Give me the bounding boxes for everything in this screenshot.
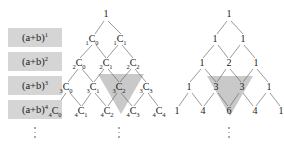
combination-node-4-1: 4C1 <box>74 106 87 116</box>
figure-canvas: (a+b)1 (a+b)2 (a+b)3 (a+b)4 1 1C0 1C1 2C… <box>0 0 284 149</box>
combination-node-2-1-sym: C <box>103 57 110 68</box>
pascal-node-4-2: 6 <box>227 106 232 116</box>
triangle-graphics-layer <box>0 0 284 149</box>
pascal-node-2-0: 1 <box>200 58 205 68</box>
pascal-node-4-4: 1 <box>279 106 284 116</box>
combination-node-4-4-sub: 4 <box>162 111 165 118</box>
combination-node-2-2-sym: C <box>130 57 137 68</box>
combination-node-3-3: 3C3 <box>139 82 152 92</box>
power-label-base-3: (a+b) <box>22 80 45 91</box>
combination-node-1-0: 1C0 <box>85 34 98 44</box>
combination-node-1-1: 1C1 <box>113 34 126 44</box>
combination-node-2-2-sub: 2 <box>136 63 139 70</box>
combination-node-3-1-sym: C <box>90 81 97 92</box>
combination-node-4-0-sym: C <box>52 105 59 116</box>
combination-node-4-0-sub: 0 <box>58 111 61 118</box>
combination-node-2-0-sym: C <box>76 57 83 68</box>
power-label-base-1: (a+b) <box>22 32 45 43</box>
combination-node-3-3-sub: 3 <box>149 87 152 94</box>
power-label-1: (a+b)1 <box>8 28 62 47</box>
power-label-3: (a+b)3 <box>8 76 62 95</box>
combination-node-2-2: 2C2 <box>126 58 139 68</box>
combination-node-4-0: 4C0 <box>48 106 61 116</box>
combination-node-1-1-sym: C <box>117 33 124 44</box>
combination-node-2-0-sub: 0 <box>82 63 85 70</box>
pascal-node-4-1: 4 <box>201 106 206 116</box>
combination-node-2-1: 2C1 <box>99 58 112 68</box>
combination-node-4-4: 4C4 <box>152 106 165 116</box>
combination-node-1-0-sub: 0 <box>95 39 98 46</box>
pascal-node-1-0: 1 <box>213 34 218 44</box>
combination-node-3-0-sub: 0 <box>69 87 72 94</box>
combination-node-4-2-sym: C <box>104 105 111 116</box>
pascal-node-3-2: 3 <box>240 82 245 92</box>
combination-node-3-2: 3C2 <box>112 82 125 92</box>
pascal-node-4-3: 4 <box>253 106 258 116</box>
combination-apex-1: 1 <box>104 9 109 19</box>
combination-node-3-1: 3C1 <box>86 82 99 92</box>
combination-node-3-0: 3C0 <box>59 82 72 92</box>
combination-node-4-1-sub: 1 <box>84 111 87 118</box>
combination-node-3-2-sub: 2 <box>122 87 125 94</box>
combination-node-4-3-sym: C <box>130 105 137 116</box>
power-label-exponent-2: 2 <box>45 55 48 62</box>
pascal-node-2-1: 2 <box>227 58 232 68</box>
combination-node-4-1-sym: C <box>78 105 85 116</box>
pascal-node-3-1: 3 <box>214 82 219 92</box>
combination-node-4-3: 4C3 <box>126 106 139 116</box>
pascal-node-2-2: 1 <box>254 58 259 68</box>
power-label-2: (a+b)2 <box>8 52 62 71</box>
combination-node-2-1-sub: 1 <box>109 63 112 70</box>
pascal-node-3-3: 1 <box>267 82 272 92</box>
combination-node-4-2-sub: 2 <box>110 111 113 118</box>
combination-node-3-2-sym: C <box>116 81 123 92</box>
combination-node-3-0-sym: C <box>63 81 70 92</box>
power-label-ellipsis <box>34 124 37 138</box>
pascal-node-4-0: 1 <box>175 106 180 116</box>
pascal-apex-1: 1 <box>227 9 232 19</box>
combination-node-1-0-sym: C <box>89 33 96 44</box>
combination-node-4-2: 4C2 <box>100 106 113 116</box>
combination-node-2-0: 2C0 <box>72 58 85 68</box>
pascal-node-1-1: 1 <box>241 34 246 44</box>
combination-node-4-4-sym: C <box>156 105 163 116</box>
combination-node-3-1-sub: 1 <box>96 87 99 94</box>
combination-node-4-3-sub: 3 <box>136 111 139 118</box>
power-label-exponent-3: 3 <box>45 79 48 86</box>
pascal-node-3-0: 1 <box>187 82 192 92</box>
power-label-base-2: (a+b) <box>22 56 45 67</box>
combination-node-3-3-sym: C <box>143 81 150 92</box>
power-label-base-4: (a+b) <box>22 104 45 115</box>
combination-triangle-ellipsis <box>118 124 121 138</box>
power-label-exponent-1: 1 <box>45 31 48 38</box>
combination-node-1-1-sub: 1 <box>123 39 126 46</box>
pascal-triangle-ellipsis <box>228 124 231 138</box>
